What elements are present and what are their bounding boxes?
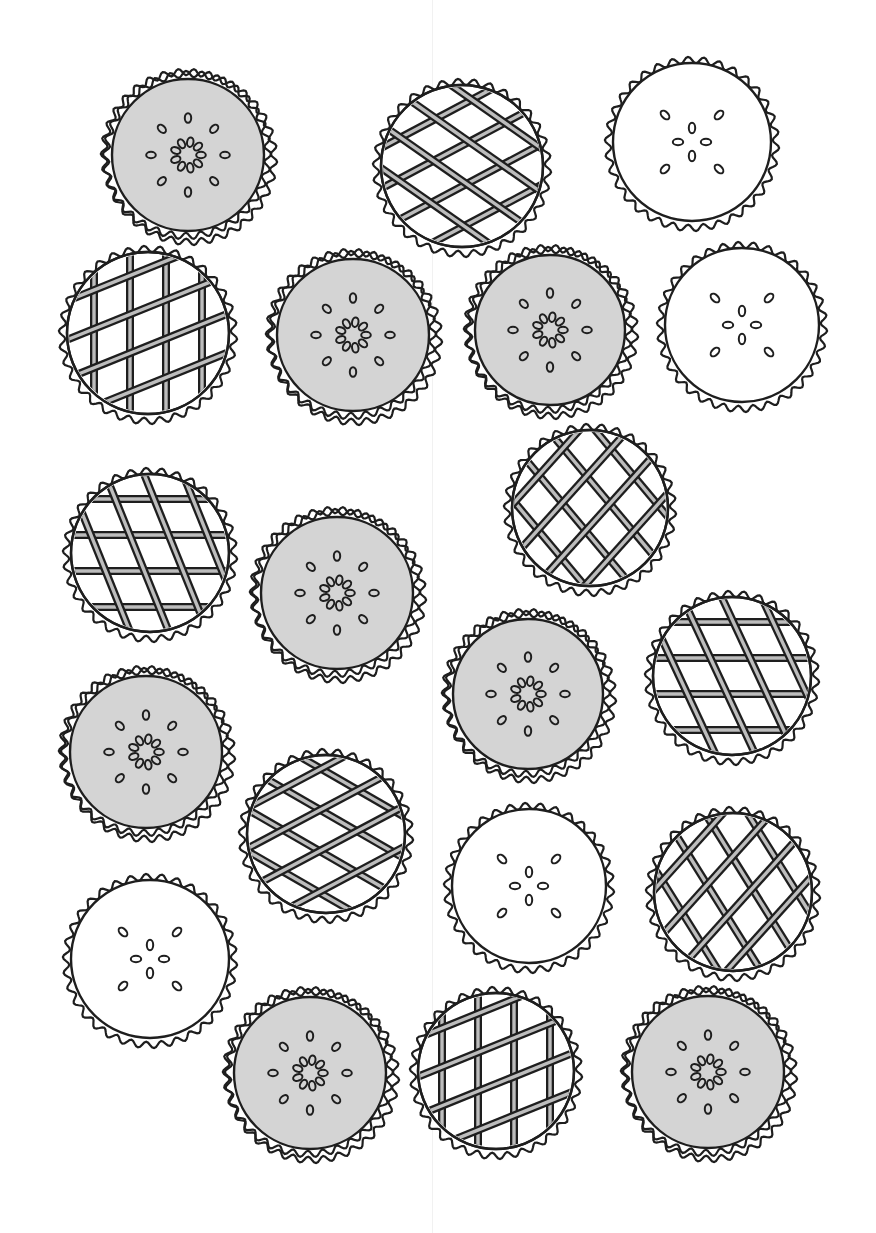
pie-lattice-4 bbox=[43, 244, 249, 424]
pie-lattice-8 bbox=[488, 404, 687, 608]
pie-slit-17 bbox=[63, 874, 237, 1048]
pie-seed-11 bbox=[442, 609, 616, 783]
pie-lattice-12 bbox=[645, 572, 823, 775]
pie-lattice-19 bbox=[394, 983, 594, 1159]
pie-seed-18 bbox=[223, 987, 399, 1163]
pie-lattice-2 bbox=[358, 66, 569, 257]
pie-slit-3 bbox=[605, 57, 779, 231]
pie-seed-6 bbox=[464, 245, 638, 419]
pie-seed-20 bbox=[621, 986, 797, 1162]
pie-seed-5 bbox=[266, 249, 442, 425]
pies-illustration bbox=[0, 0, 876, 1233]
pie-lattice-9 bbox=[63, 450, 238, 652]
pie-seed-10 bbox=[250, 507, 426, 683]
pie-seed-1 bbox=[101, 69, 277, 245]
pie-lattice-14 bbox=[221, 740, 428, 924]
pie-slit-7 bbox=[657, 242, 827, 412]
coloring-page: coloring page illustration bbox=[0, 0, 876, 1233]
pie-slit-15 bbox=[444, 803, 614, 973]
pie-lattice-16 bbox=[630, 787, 827, 994]
pie-seed-13 bbox=[59, 666, 235, 842]
